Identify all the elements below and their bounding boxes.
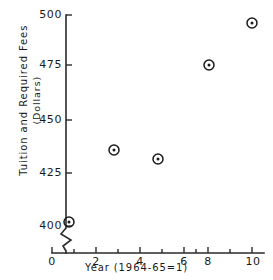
y-tick-label-400: 400 — [26, 220, 62, 231]
data-point — [247, 18, 257, 28]
y-axis-title-line1: Tuition and Required Fees — [18, 25, 29, 176]
y-axis-title: Tuition and Required Fees (Dollars) — [18, 0, 42, 200]
data-point — [204, 60, 214, 70]
x-tick-marks — [52, 247, 252, 253]
data-point — [109, 145, 119, 155]
y-tick-marks — [66, 15, 72, 226]
scatter-chart: 500 475 450 425 400 0 2 4 6 8 10 Year (1… — [0, 0, 273, 280]
x-axis-title: Year (1964-65=1) — [0, 262, 273, 273]
data-points — [64, 18, 257, 227]
y-axis-title-line2: (Dollars) — [30, 0, 42, 200]
axis-break-icon — [61, 228, 71, 251]
data-point — [153, 154, 163, 164]
